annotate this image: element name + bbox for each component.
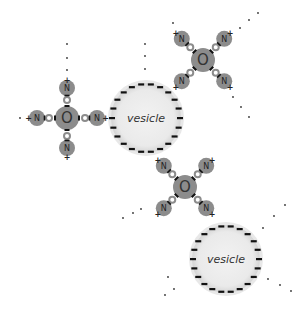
field-dot (140, 208, 142, 210)
linker-ring (64, 97, 70, 103)
negative-charge-mark (176, 107, 182, 109)
field-dot (66, 43, 68, 45)
negative-charge-mark (228, 225, 234, 227)
field-dot (19, 117, 21, 119)
nitrogen-label: N (161, 162, 167, 171)
field-dot (248, 19, 250, 21)
negative-charge-mark (209, 228, 215, 230)
linker-ring (169, 171, 175, 177)
negative-charge-mark (177, 117, 183, 119)
positive-charge-mark: + (25, 114, 32, 123)
negative-charge-mark (165, 143, 171, 145)
linker-ring (213, 44, 219, 50)
linker-ring (195, 171, 201, 177)
negative-charge-mark (237, 228, 243, 230)
negative-charge-mark (110, 107, 116, 109)
negative-charge-mark (129, 86, 135, 88)
positive-charge-mark: + (209, 156, 216, 165)
negative-charge-mark (157, 86, 163, 88)
field-dot (239, 27, 241, 29)
positive-charge-mark: + (209, 210, 216, 219)
linker-ring (169, 197, 175, 203)
nitrogen-label: N (64, 84, 70, 93)
negative-charge-mark (218, 225, 224, 227)
field-dot (262, 227, 264, 229)
field-dot (173, 288, 175, 290)
oxygen-label: O (61, 109, 73, 127)
field-dot (232, 96, 234, 98)
diagram-canvas: vesiclevesicle ON+N+N+N+ON+N+N+N+ON+N+N+… (0, 0, 307, 317)
negative-charge-mark (201, 283, 207, 285)
positive-charge-mark: + (154, 156, 161, 165)
field-dot (66, 69, 68, 71)
negative-charge-mark (121, 91, 127, 93)
negative-charge-mark (157, 148, 163, 150)
negative-charge-mark (228, 291, 234, 293)
negative-charge-mark (148, 83, 154, 85)
linker-ring (46, 115, 52, 121)
oxygen-label: O (179, 178, 191, 196)
field-dot (132, 212, 134, 214)
negative-charge-mark (251, 240, 257, 242)
linker-ring (195, 197, 201, 203)
linker-ring (187, 44, 193, 50)
negative-charge-mark (191, 249, 197, 251)
negative-charge-mark (209, 288, 215, 290)
negative-charge-mark (129, 148, 135, 150)
negative-charge-mark (110, 127, 116, 129)
negative-charge-mark (121, 143, 127, 145)
field-dot (144, 55, 146, 57)
molecule-left: ON+N+N+N+ (25, 76, 109, 162)
field-dot (66, 57, 68, 59)
negative-charge-mark (190, 258, 196, 260)
nitrogen-label: N (179, 35, 185, 44)
negative-charge-mark (138, 151, 144, 153)
oxygen-label: O (197, 51, 209, 69)
negative-charge-mark (195, 276, 201, 278)
positive-charge-mark: + (64, 153, 71, 162)
field-dot (172, 22, 174, 24)
positive-charge-mark: + (154, 210, 161, 219)
molecule-middle: ON+N+N+N+ (154, 156, 215, 219)
field-dot (144, 43, 146, 45)
negative-charge-mark (176, 127, 182, 129)
negative-charge-mark (165, 91, 171, 93)
field-dot (144, 68, 146, 70)
field-dot (267, 278, 269, 280)
negative-charge-mark (172, 99, 178, 101)
negative-charge-mark (114, 99, 120, 101)
positive-charge-mark: + (172, 29, 179, 38)
linker-ring (82, 115, 88, 121)
nitrogen-label: N (179, 77, 185, 86)
vesicle-2: vesicle (189, 222, 263, 296)
negative-charge-mark (256, 258, 262, 260)
negative-charge-mark (201, 233, 207, 235)
field-dot (257, 12, 259, 14)
positive-charge-mark: + (227, 83, 234, 92)
negative-charge-mark (148, 151, 154, 153)
negative-charge-mark (109, 117, 115, 119)
diagram-svg: vesiclevesicle ON+N+N+N+ON+N+N+N+ON+N+N+… (0, 0, 307, 317)
negative-charge-mark (114, 135, 120, 137)
positive-charge-mark: + (64, 76, 71, 85)
negative-charge-mark (245, 233, 251, 235)
field-dot (279, 284, 281, 286)
vesicle-label: vesicle (207, 253, 245, 266)
field-dot (167, 276, 169, 278)
negative-charge-mark (138, 83, 144, 85)
negative-charge-mark (245, 283, 251, 285)
field-dot (248, 116, 250, 118)
negative-charge-mark (251, 276, 257, 278)
nitrogen-label: N (34, 114, 40, 123)
negative-charge-mark (218, 291, 224, 293)
vesicle-label: vesicle (127, 112, 165, 125)
negative-charge-mark (255, 249, 261, 251)
negative-charge-mark (237, 288, 243, 290)
negative-charge-mark (255, 267, 261, 269)
linker-ring (64, 133, 70, 139)
field-dot (284, 204, 286, 206)
negative-charge-mark (195, 240, 201, 242)
field-dot (240, 106, 242, 108)
field-dot (290, 290, 292, 292)
field-dot (273, 215, 275, 217)
